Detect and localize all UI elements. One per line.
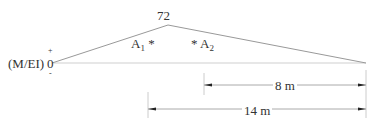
centroid-marker-icon: * [148, 36, 155, 51]
arrow-left-icon [204, 84, 212, 87]
area-label-a1: A1 * [131, 37, 155, 53]
area-subscript: 2 [209, 43, 214, 53]
minus-sign: - [49, 70, 52, 78]
peak-value-label: 72 [157, 9, 170, 22]
diagram-canvas [0, 0, 383, 127]
area-name: A [131, 36, 140, 51]
area-subscript: 1 [140, 43, 145, 53]
arrow-right-icon [358, 108, 366, 111]
arrow-right-icon [358, 84, 366, 87]
dimension-label-14m: 14 m [242, 104, 272, 117]
area-label-a2: * A2 [191, 37, 214, 53]
centroid-marker-icon: * [191, 36, 198, 51]
axis-label: (M/EI) [8, 57, 44, 70]
dimension-label-8m: 8 m [273, 79, 297, 92]
arrow-left-icon [148, 108, 156, 111]
plus-sign: + [48, 47, 53, 55]
